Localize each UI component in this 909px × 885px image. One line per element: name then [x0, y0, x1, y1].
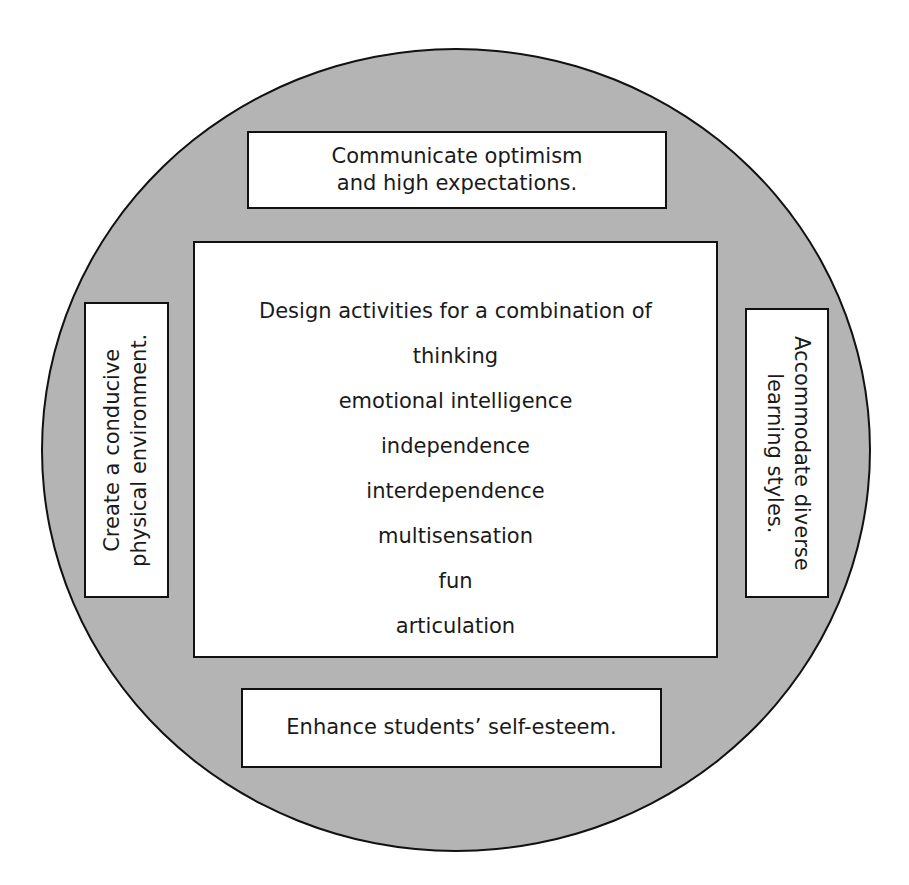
left-box-text: Create a conducive physical environment. [99, 333, 154, 566]
center-item-multisensation: multisensation [378, 514, 533, 559]
left-box-line-2: physical environment. [127, 333, 154, 566]
bottom-box-text: Enhance students’ self-esteem. [286, 714, 616, 741]
top-box-line-1: Communicate optimism [331, 143, 582, 170]
center-item-thinking: thinking [413, 334, 498, 379]
right-box-diverse-learning-styles: Accommodate diverse learning styles. [745, 308, 829, 598]
center-item-articulation: articulation [396, 604, 515, 649]
right-box-text: Accommodate diverse learning styles. [760, 336, 815, 571]
right-box-line-2: learning styles. [760, 336, 787, 571]
top-box-communicate-optimism: Communicate optimism and high expectatio… [247, 131, 667, 209]
bottom-box-self-esteem: Enhance students’ self-esteem. [241, 688, 662, 768]
center-item-emotional-intelligence: emotional intelligence [339, 379, 573, 424]
left-box-conducive-environment: Create a conducive physical environment. [84, 302, 169, 598]
top-box-text: Communicate optimism and high expectatio… [331, 143, 582, 198]
right-box-line-1: Accommodate diverse [787, 336, 814, 571]
top-box-line-2: and high expectations. [331, 170, 582, 197]
center-item-interdependence: interdependence [366, 469, 544, 514]
center-item-independence: independence [381, 424, 530, 469]
left-box-line-1: Create a conducive [99, 333, 126, 566]
center-item-fun: fun [438, 559, 472, 604]
center-box-design-activities: Design activities for a combination of t… [193, 241, 718, 658]
center-box-heading: Design activities for a combination of [259, 289, 652, 334]
